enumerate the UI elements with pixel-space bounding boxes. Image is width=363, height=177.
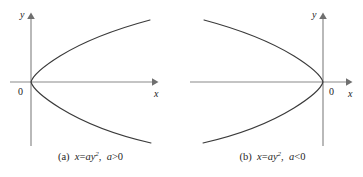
parabola-figure: y x 0 (a) x=ay2, a>0 y — [0, 0, 363, 177]
y-axis-label-b: y — [311, 9, 317, 20]
x-axis-label-a: x — [153, 88, 159, 99]
x-axis-arrow-a — [152, 78, 159, 86]
y-axis-arrow-b — [319, 13, 327, 20]
caption-a: (a) x=ay2, a>0 — [0, 150, 181, 164]
caption-a-comma: , — [99, 151, 102, 162]
caption-b: (b) x=ay2, a<0 — [182, 150, 363, 164]
x-axis-arrow-b — [346, 78, 353, 86]
panel-b: y x 0 (b) x=ay2, a<0 — [182, 0, 363, 177]
y-axis-arrow-a — [27, 13, 35, 20]
caption-b-tag: (b) — [240, 151, 252, 162]
caption-b-value: 0 — [300, 151, 305, 162]
x-axis-label-b: x — [347, 88, 353, 99]
y-axis-label-a: y — [19, 9, 25, 20]
parabola-b-svg: y x 0 — [182, 0, 363, 150]
plot-b: y x 0 — [182, 0, 363, 150]
caption-a-tag: (a) — [58, 151, 70, 162]
caption-b-comma: , — [281, 151, 284, 162]
panel-a: y x 0 (a) x=ay2, a>0 — [0, 0, 181, 177]
parabola-a-svg: y x 0 — [0, 0, 181, 150]
caption-a-value: 0 — [118, 151, 123, 162]
plot-a: y x 0 — [0, 0, 181, 150]
origin-label-a: 0 — [18, 86, 23, 97]
origin-label-b: 0 — [329, 86, 334, 97]
